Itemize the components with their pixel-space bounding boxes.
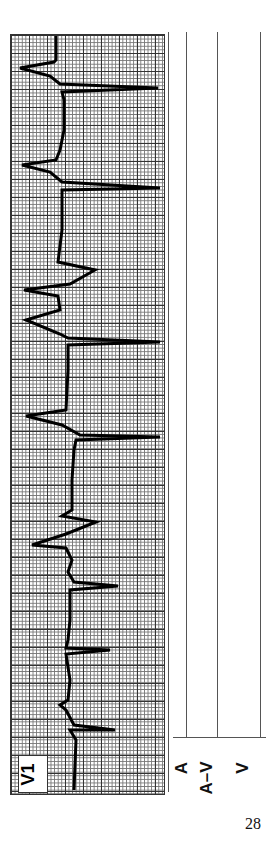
ladder-border-left [168,32,169,792]
ladder-divider-a [186,32,187,738]
ladder-bottom-line [173,737,266,738]
ladder-label-v: V [233,762,253,773]
ladder-label-av: A–V [197,761,217,794]
ecg-trace [0,0,277,844]
lead-label-box: V1 [18,755,48,793]
ladder-label-a: A [172,762,192,774]
ladder-divider-av [217,32,218,738]
ladder-border-right [260,32,261,738]
page-number: 28 [245,815,261,833]
lead-label: V1 [18,763,39,785]
